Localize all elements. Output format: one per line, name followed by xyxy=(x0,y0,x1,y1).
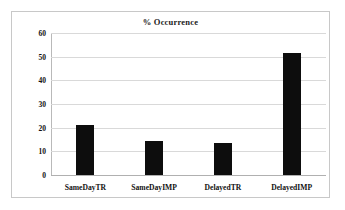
bar xyxy=(283,53,301,175)
gridline xyxy=(51,175,326,176)
gridline xyxy=(51,33,326,34)
y-axis-tick-label: 30 xyxy=(39,100,47,109)
y-axis-tick-label: 50 xyxy=(39,52,47,61)
x-axis-tick-label: SameDayIMP xyxy=(131,183,177,192)
plot-area: 0102030405060 SameDayTRSameDayIMPDelayed… xyxy=(51,33,326,175)
x-axis-tick-label: SameDayTR xyxy=(65,183,106,192)
chart-figure: % Occurrence 0102030405060 SameDayTRSame… xyxy=(11,11,330,198)
y-axis-tick-label: 60 xyxy=(39,29,47,38)
y-axis-tick-label: 20 xyxy=(39,123,47,132)
chart-title: % Occurrence xyxy=(12,17,329,27)
bar xyxy=(214,143,232,175)
x-axis-tick-label: DelayedTR xyxy=(205,183,242,192)
y-axis-tick-label: 0 xyxy=(42,171,46,180)
bar xyxy=(145,141,163,175)
y-axis-tick-label: 40 xyxy=(39,76,47,85)
bar xyxy=(76,125,94,175)
x-axis-tick-label: DelayedIMP xyxy=(271,183,312,192)
y-axis-tick-label: 10 xyxy=(39,147,47,156)
